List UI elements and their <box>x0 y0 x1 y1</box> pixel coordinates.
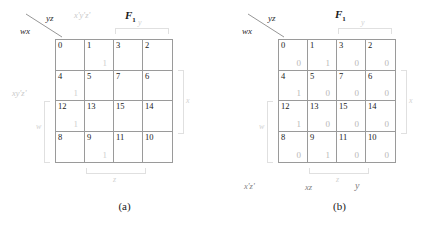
kmap-panel-a: yz wx F1 x'y'z' xy'z' y x z w 0 11 3 2 4… <box>0 0 219 235</box>
kmap-cell[interactable]: 20 <box>366 40 395 71</box>
kmap-cell[interactable]: 91 <box>308 132 337 163</box>
figure-caption-a: (a) <box>15 200 234 212</box>
cell-value: 1 <box>297 119 302 130</box>
axis-corner-label-b: yz wx <box>240 8 296 42</box>
kmap-cell[interactable]: 130 <box>308 101 337 132</box>
cell-value: 0 <box>355 58 360 69</box>
cell-index: 13 <box>87 101 96 112</box>
cell-index: 8 <box>281 132 285 143</box>
kmap-panel-b: yz wx F1 y x z w x'z' xz y 00 11 30 20 4… <box>220 0 439 235</box>
axis-corner-label-a: yz wx <box>18 8 74 42</box>
kmap-cell[interactable]: 41 <box>279 71 308 102</box>
kmap-cell[interactable]: 110 <box>337 132 366 163</box>
bracket-bottom-label-b: z <box>336 175 339 184</box>
kmap-cell[interactable]: 10 <box>143 132 172 163</box>
cell-value: 0 <box>385 150 390 161</box>
cell-index: 2 <box>368 40 372 51</box>
kmap-cell[interactable]: 5 <box>85 71 114 102</box>
cell-index: 12 <box>281 101 290 112</box>
cell-index: 0 <box>58 40 62 51</box>
bracket-top-label-a: y <box>138 18 142 27</box>
kmap-cell[interactable]: 121 <box>279 101 308 132</box>
term-label-b-bottom-mid: xz <box>305 182 312 192</box>
kmap-cell[interactable]: 100 <box>366 132 395 163</box>
kmap-cell[interactable]: 3 <box>114 40 143 71</box>
bracket-bottom-label-a: z <box>113 175 116 184</box>
kmap-cell[interactable]: 0 <box>56 40 85 71</box>
bracket-top-b: y <box>338 28 392 34</box>
cell-index: 7 <box>116 71 120 82</box>
bracket-right-label-a: x <box>186 96 190 105</box>
bracket-left-a: w <box>44 101 50 163</box>
cell-index: 4 <box>58 71 62 82</box>
cell-index: 13 <box>310 101 319 112</box>
cell-value: 0 <box>355 88 360 99</box>
cell-value: 0 <box>355 119 360 130</box>
kmap-cell[interactable]: 6 <box>143 71 172 102</box>
kmap-cell[interactable]: 11 <box>114 132 143 163</box>
cell-value: 0 <box>385 119 390 130</box>
term-label-a-top: x'y'z' <box>74 10 90 20</box>
cell-value: 1 <box>326 58 331 69</box>
kmap-cell[interactable]: 140 <box>366 101 395 132</box>
kmap-cell[interactable]: 8 <box>56 132 85 163</box>
cell-index: 5 <box>310 71 314 82</box>
bracket-right-label-b: x <box>409 96 413 105</box>
bracket-top-a: y <box>115 28 169 34</box>
axis-label-yz-b: yz <box>268 13 276 23</box>
kmap-cell[interactable]: 00 <box>279 40 308 71</box>
kmap-cell[interactable]: 91 <box>85 132 114 163</box>
cell-index: 10 <box>368 132 377 143</box>
cell-index: 10 <box>145 132 154 143</box>
kmap-cell[interactable]: 150 <box>337 101 366 132</box>
cell-value: 0 <box>297 58 302 69</box>
cell-index: 14 <box>145 101 154 112</box>
kmap-cell[interactable]: 70 <box>337 71 366 102</box>
cell-index: 4 <box>281 71 285 82</box>
cell-index: 1 <box>87 40 91 51</box>
axis-label-wx-b: wx <box>242 26 252 36</box>
cell-index: 15 <box>116 101 125 112</box>
kmap-grid-b[interactable]: 00 11 30 20 41 50 70 60 121 130 150 140 … <box>278 39 396 163</box>
kmap-cell[interactable]: 121 <box>56 101 85 132</box>
term-label-b-bottom-right: y <box>355 180 359 191</box>
kmap-title-b: F1 <box>335 8 346 23</box>
bracket-right-b: x <box>401 70 407 134</box>
cell-index: 12 <box>58 101 67 112</box>
diagonal-divider-icon <box>24 12 64 38</box>
kmap-cell[interactable]: 80 <box>279 132 308 163</box>
cell-index: 0 <box>281 40 285 51</box>
cell-index: 2 <box>145 40 149 51</box>
cell-index: 1 <box>310 40 314 51</box>
kmap-cell[interactable]: 7 <box>114 71 143 102</box>
kmap-grid-a[interactable]: 0 11 3 2 41 5 7 6 121 13 15 14 8 91 11 1… <box>55 39 173 163</box>
kmap-title-a: F1 <box>125 9 136 24</box>
kmap-cell[interactable]: 41 <box>56 71 85 102</box>
cell-index: 9 <box>310 132 314 143</box>
cell-index: 6 <box>145 71 149 82</box>
kmap-cell[interactable]: 14 <box>143 101 172 132</box>
cell-value: 1 <box>74 88 79 99</box>
cell-value: 1 <box>297 88 302 99</box>
cell-value: 0 <box>385 58 390 69</box>
kmap-cell[interactable]: 13 <box>85 101 114 132</box>
bracket-bottom-a: z <box>86 168 146 174</box>
cell-value: 0 <box>297 150 302 161</box>
cell-index: 5 <box>87 71 91 82</box>
kmap-cell[interactable]: 50 <box>308 71 337 102</box>
kmap-cell[interactable]: 11 <box>308 40 337 71</box>
bracket-left-label-b: w <box>259 122 264 131</box>
kmap-cell[interactable]: 60 <box>366 71 395 102</box>
kmap-cell[interactable]: 15 <box>114 101 143 132</box>
axis-label-wx-a: wx <box>20 26 30 36</box>
cell-index: 6 <box>368 71 372 82</box>
kmap-cell[interactable]: 11 <box>85 40 114 71</box>
cell-value: 0 <box>326 88 331 99</box>
kmap-cell[interactable]: 30 <box>337 40 366 71</box>
bracket-right-a: x <box>178 70 184 134</box>
cell-index: 3 <box>339 40 343 51</box>
kmap-cell[interactable]: 2 <box>143 40 172 71</box>
bracket-bottom-b: z <box>309 168 369 174</box>
cell-index: 3 <box>116 40 120 51</box>
cell-value: 1 <box>103 58 108 69</box>
